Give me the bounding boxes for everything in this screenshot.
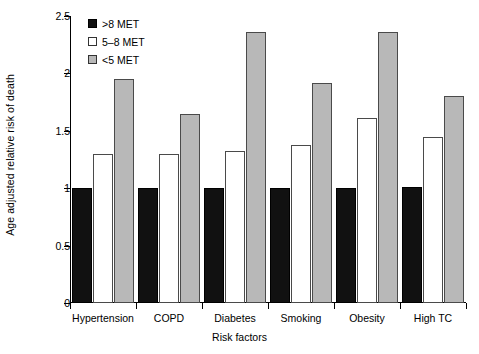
bar bbox=[312, 83, 332, 303]
bar bbox=[378, 32, 398, 303]
bar bbox=[246, 32, 266, 303]
chart-figure: Age adjusted relative risk of death 00.5… bbox=[0, 0, 479, 354]
bar bbox=[357, 118, 377, 303]
chart-legend: >8 MET5–8 MET<5 MET bbox=[88, 16, 145, 70]
bar bbox=[336, 188, 356, 303]
y-axis-title: Age adjusted relative risk of death bbox=[2, 0, 18, 310]
bar bbox=[159, 154, 179, 303]
x-tick-mark bbox=[70, 303, 71, 309]
y-tick-label: 2.5 bbox=[30, 10, 70, 22]
x-category-label: COPD bbox=[154, 312, 184, 324]
bar bbox=[204, 188, 224, 303]
bar bbox=[114, 79, 134, 303]
legend-item: 5–8 MET bbox=[88, 34, 145, 49]
x-tick-mark bbox=[466, 303, 467, 309]
legend-label: >8 MET bbox=[102, 18, 139, 30]
bar bbox=[444, 96, 464, 303]
bar bbox=[93, 154, 113, 303]
legend-label: 5–8 MET bbox=[102, 36, 145, 48]
bar bbox=[291, 145, 311, 303]
bar bbox=[402, 187, 422, 303]
legend-swatch-icon bbox=[88, 55, 97, 64]
x-tick-mark bbox=[136, 303, 137, 309]
legend-item: >8 MET bbox=[88, 16, 145, 31]
y-tick-label: 0.5 bbox=[30, 240, 70, 252]
bar bbox=[138, 188, 158, 303]
x-tick-mark bbox=[334, 303, 335, 309]
bar bbox=[225, 151, 245, 303]
y-tick-label: 0 bbox=[30, 297, 70, 309]
x-tick-mark bbox=[400, 303, 401, 309]
x-category-label: Obesity bbox=[349, 312, 385, 324]
x-category-label: Hypertension bbox=[72, 312, 134, 324]
legend-swatch-icon bbox=[88, 37, 97, 46]
bar bbox=[423, 137, 443, 303]
y-tick-label: 1 bbox=[30, 182, 70, 194]
x-category-label: High TC bbox=[414, 312, 452, 324]
bar bbox=[270, 188, 290, 303]
x-axis-title: Risk factors bbox=[0, 331, 479, 343]
y-axis-title-text: Age adjusted relative risk of death bbox=[4, 74, 16, 236]
bar bbox=[180, 114, 200, 303]
x-tick-mark bbox=[268, 303, 269, 309]
x-tick-mark bbox=[202, 303, 203, 309]
legend-label: <5 MET bbox=[102, 54, 139, 66]
x-category-label: Diabetes bbox=[214, 312, 255, 324]
y-tick-label: 1.5 bbox=[30, 125, 70, 137]
y-tick-label: 2 bbox=[30, 67, 70, 79]
x-category-label: Smoking bbox=[281, 312, 322, 324]
legend-swatch-icon bbox=[88, 19, 97, 28]
bar bbox=[72, 188, 92, 303]
legend-item: <5 MET bbox=[88, 52, 145, 67]
